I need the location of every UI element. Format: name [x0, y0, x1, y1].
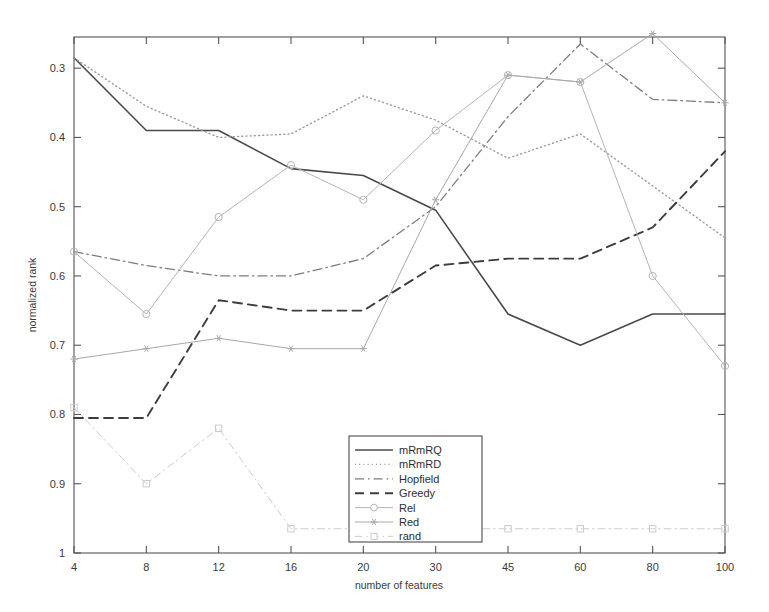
- x-tick-label: 8: [143, 561, 149, 573]
- y-tick-label: 0.9: [50, 478, 65, 490]
- y-tick-label: 0.6: [50, 270, 65, 282]
- legend-label: Greedy: [399, 487, 436, 499]
- legend-marker-sample: [371, 533, 377, 539]
- chart-legend[interactable]: mRmRQmRmRDHopfieldGreedyRelRedrand: [349, 436, 482, 542]
- legend-label: Red: [399, 516, 419, 528]
- line-chart-canvas: 0.30.40.50.60.70.80.91 48121620304560801…: [0, 0, 769, 612]
- x-tick-label: 100: [716, 561, 734, 573]
- x-tick-label: 20: [357, 561, 369, 573]
- x-tick-label: 80: [647, 561, 659, 573]
- y-tick-label: 1: [59, 547, 65, 559]
- x-tick-label: 4: [71, 561, 77, 573]
- y-tick-label: 0.5: [50, 201, 65, 213]
- x-tick-label: 12: [213, 561, 225, 573]
- legend-marker-sample: [371, 504, 378, 511]
- chart-figure: 0.30.40.50.60.70.80.91 48121620304560801…: [0, 0, 769, 612]
- x-tick-label: 60: [574, 561, 586, 573]
- y-tick-label: 0.4: [50, 131, 65, 143]
- legend-label: mRmRD: [399, 458, 441, 470]
- y-tick-label: 0.8: [50, 408, 65, 420]
- legend-label: rand: [399, 530, 421, 542]
- y-axis-title: normalized rank: [26, 257, 38, 332]
- y-tick-label: 0.7: [50, 339, 65, 351]
- y-tick-label: 0.3: [50, 62, 65, 74]
- legend-label: Hopfield: [399, 473, 439, 485]
- legend-label: Rel: [399, 502, 416, 514]
- x-axis-title: number of features: [355, 579, 443, 591]
- legend-label: mRmRQ: [399, 444, 442, 456]
- x-tick-label: 45: [502, 561, 514, 573]
- x-tick-label: 16: [285, 561, 297, 573]
- x-tick-label: 30: [430, 561, 442, 573]
